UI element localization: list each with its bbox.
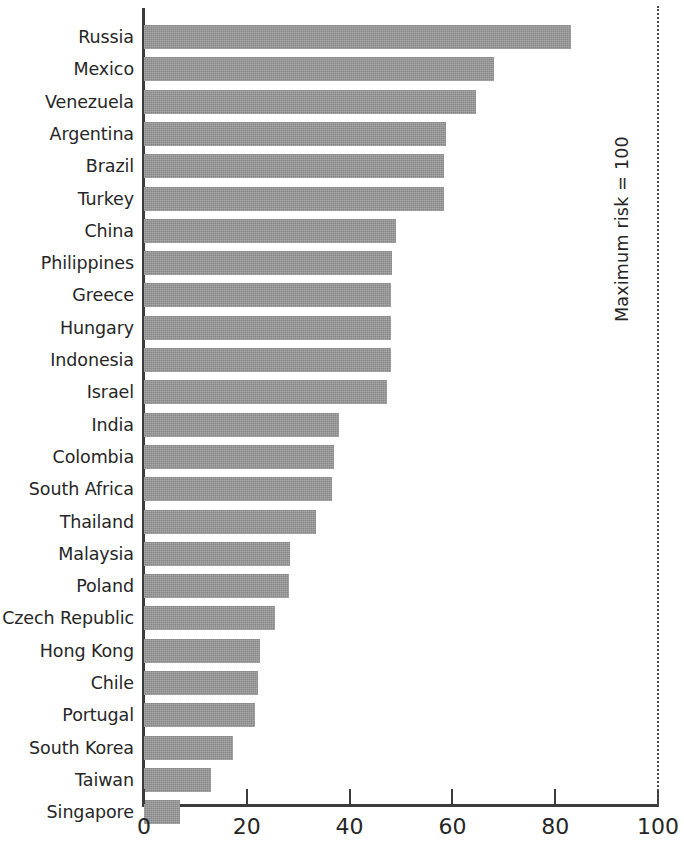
category-label-israel: Israel — [2, 380, 142, 404]
maximum-risk-label: Maximum risk = 100 — [612, 290, 632, 322]
category-label-philippines: Philippines — [2, 251, 142, 275]
bar-czech-republic — [144, 606, 275, 630]
bar-malaysia — [144, 542, 290, 566]
bar-row — [144, 348, 658, 372]
x-tick-40 — [349, 789, 351, 804]
bar-thailand — [144, 510, 316, 534]
category-label-brazil: Brazil — [2, 154, 142, 178]
bar-row — [144, 477, 658, 501]
category-label-russia: Russia — [2, 25, 142, 49]
bar-row — [144, 251, 658, 275]
category-label-indonesia: Indonesia — [2, 348, 142, 372]
category-label-thailand: Thailand — [2, 510, 142, 534]
bar-hong-kong — [144, 639, 260, 663]
category-label-turkey: Turkey — [2, 187, 142, 211]
category-label-hong-kong: Hong Kong — [2, 639, 142, 663]
x-tick-60 — [451, 789, 453, 804]
bar-row — [144, 800, 658, 824]
bar-chile — [144, 671, 258, 695]
category-label-chile: Chile — [2, 671, 142, 695]
bar-south-korea — [144, 736, 233, 760]
bar-portugal — [144, 703, 255, 727]
bar-russia — [144, 25, 571, 49]
category-label-singapore: Singapore — [2, 800, 142, 824]
bar-venezuela — [144, 90, 476, 114]
bar-row — [144, 187, 658, 211]
x-tick-label-20: 20 — [233, 814, 261, 839]
category-label-china: China — [2, 219, 142, 243]
x-tick-label-100: 100 — [637, 814, 679, 839]
bar-colombia — [144, 445, 334, 469]
category-label-south-korea: South Korea — [2, 736, 142, 760]
bar-row — [144, 445, 658, 469]
bar-hungary — [144, 316, 391, 340]
bar-row — [144, 316, 658, 340]
bar-greece — [144, 283, 391, 307]
bar-row — [144, 413, 658, 437]
bar-row — [144, 736, 658, 760]
category-label-czech-republic: Czech Republic — [2, 606, 142, 630]
bar-india — [144, 413, 339, 437]
category-label-portugal: Portugal — [2, 703, 142, 727]
category-label-mexico: Mexico — [2, 57, 142, 81]
bar-row — [144, 510, 658, 534]
bar-row — [144, 574, 658, 598]
x-tick-0 — [143, 789, 145, 804]
bar-row — [144, 606, 658, 630]
x-tick-label-80: 80 — [541, 814, 569, 839]
category-label-colombia: Colombia — [2, 445, 142, 469]
bar-row — [144, 122, 658, 146]
x-tick-label-40: 40 — [336, 814, 364, 839]
bar-row — [144, 639, 658, 663]
bar-brazil — [144, 154, 444, 178]
category-label-venezuela: Venezuela — [2, 90, 142, 114]
category-axis-labels: RussiaMexicoVenezuelaArgentinaBrazilTurk… — [0, 8, 142, 805]
bar-row — [144, 25, 658, 49]
bar-mexico — [144, 57, 494, 81]
maximum-risk-dotted-line — [657, 6, 659, 806]
bar-taiwan — [144, 768, 211, 792]
bar-row — [144, 154, 658, 178]
category-label-poland: Poland — [2, 574, 142, 598]
x-tick-label-0: 0 — [137, 814, 151, 839]
category-label-south-africa: South Africa — [2, 477, 142, 501]
category-label-greece: Greece — [2, 283, 142, 307]
x-tick-label-60: 60 — [438, 814, 466, 839]
bar-row — [144, 90, 658, 114]
bar-chart-figure: RussiaMexicoVenezuelaArgentinaBrazilTurk… — [0, 0, 684, 865]
category-label-malaysia: Malaysia — [2, 542, 142, 566]
plot-area — [144, 8, 658, 805]
bar-row — [144, 57, 658, 81]
bar-china — [144, 219, 396, 243]
category-label-hungary: Hungary — [2, 316, 142, 340]
bar-row — [144, 703, 658, 727]
category-label-argentina: Argentina — [2, 122, 142, 146]
bar-row — [144, 380, 658, 404]
bar-poland — [144, 574, 289, 598]
category-label-india: India — [2, 413, 142, 437]
bar-philippines — [144, 251, 392, 275]
bar-israel — [144, 380, 387, 404]
x-tick-20 — [246, 789, 248, 804]
bar-row — [144, 283, 658, 307]
bar-row — [144, 542, 658, 566]
bar-row — [144, 671, 658, 695]
bar-turkey — [144, 187, 444, 211]
bar-argentina — [144, 122, 446, 146]
x-tick-80 — [554, 789, 556, 804]
bar-indonesia — [144, 348, 391, 372]
bar-row — [144, 768, 658, 792]
bar-row — [144, 219, 658, 243]
category-label-taiwan: Taiwan — [2, 768, 142, 792]
bar-south-africa — [144, 477, 332, 501]
